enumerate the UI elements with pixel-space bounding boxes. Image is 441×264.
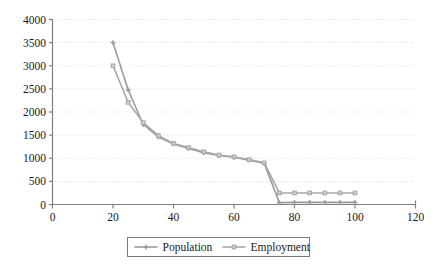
datapoint-employment-35 bbox=[157, 134, 161, 138]
x-axis-ticks bbox=[53, 205, 416, 209]
y-tick-label-0: 0 bbox=[40, 199, 46, 211]
datapoint-employment-50 bbox=[202, 150, 206, 154]
y-tick-label-1500: 1500 bbox=[23, 129, 46, 141]
y-tick-label-500: 500 bbox=[29, 175, 47, 187]
chart-legend: PopulationEmployment bbox=[128, 238, 311, 257]
datapoint-employment-45 bbox=[187, 146, 191, 150]
x-tick-label-0: 0 bbox=[50, 211, 56, 223]
datapoint-employment-100 bbox=[353, 191, 357, 195]
legend-label-employment: Employment bbox=[251, 241, 311, 254]
datapoint-employment-60 bbox=[232, 155, 236, 159]
datapoint-employment-40 bbox=[172, 142, 176, 146]
y-axis-tick-labels: 05001000150020002500300035004000 bbox=[23, 14, 46, 211]
y-tick-label-2000: 2000 bbox=[23, 106, 46, 118]
x-tick-label-100: 100 bbox=[346, 211, 364, 223]
y-tick-label-3500: 3500 bbox=[23, 37, 46, 49]
series-population bbox=[111, 40, 358, 205]
datapoint-population-20 bbox=[111, 40, 116, 45]
datapoint-employment-55 bbox=[217, 153, 221, 157]
square-marker-icon bbox=[232, 245, 236, 249]
y-tick-label-1000: 1000 bbox=[23, 152, 46, 164]
line-chart: 05001000150020002500300035004000 0204060… bbox=[0, 0, 441, 264]
datapoint-employment-30 bbox=[141, 121, 145, 125]
x-tick-label-40: 40 bbox=[168, 211, 180, 223]
datapoint-employment-80 bbox=[293, 191, 297, 195]
datapoint-employment-85 bbox=[308, 191, 312, 195]
x-tick-label-120: 120 bbox=[407, 211, 425, 223]
datapoint-employment-75 bbox=[278, 191, 282, 195]
datapoint-employment-65 bbox=[247, 158, 251, 162]
y-tick-label-4000: 4000 bbox=[23, 14, 46, 26]
x-axis-tick-labels: 020406080100120 bbox=[50, 211, 425, 223]
x-tick-label-60: 60 bbox=[228, 211, 240, 223]
datapoint-population-25 bbox=[126, 87, 131, 92]
chart-container: 05001000150020002500300035004000 0204060… bbox=[0, 0, 441, 264]
series-line-population bbox=[113, 43, 355, 203]
x-tick-label-80: 80 bbox=[289, 211, 301, 223]
data-series-group bbox=[111, 40, 358, 205]
y-tick-label-2500: 2500 bbox=[23, 83, 46, 95]
datapoint-employment-20 bbox=[111, 64, 115, 68]
datapoint-employment-25 bbox=[126, 100, 130, 104]
legend-label-population: Population bbox=[163, 241, 213, 254]
datapoint-employment-70 bbox=[262, 161, 266, 165]
y-tick-label-3000: 3000 bbox=[23, 60, 46, 72]
datapoint-employment-90 bbox=[323, 191, 327, 195]
datapoint-employment-95 bbox=[338, 191, 342, 195]
x-tick-label-20: 20 bbox=[107, 211, 119, 223]
